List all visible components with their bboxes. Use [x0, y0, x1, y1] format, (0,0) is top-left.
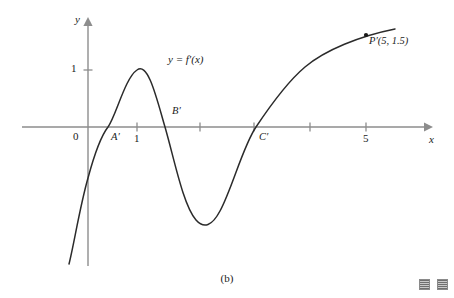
y-axis-label: y [75, 14, 80, 25]
label-b-prime: B′ [172, 106, 181, 117]
point-marker-p-prime [364, 33, 368, 37]
corner-marks [419, 279, 448, 290]
label-a-prime: A′ [111, 132, 120, 143]
x-tick-label-1: 1 [134, 133, 140, 144]
label-c-prime: C′ [259, 132, 268, 143]
origin-label: 0 [73, 131, 79, 142]
label-p-prime: P′(5, 1.5) [369, 36, 408, 47]
corner-square-1 [419, 279, 430, 290]
y-tick-label-1: 1 [71, 63, 77, 74]
curve-equation-label: y = f′(x) [168, 54, 203, 65]
x-axis [22, 122, 433, 131]
x-axis-label: x [429, 134, 434, 145]
corner-square-2 [437, 279, 448, 290]
curve-f-prime [69, 29, 395, 264]
x-tick-label-5: 5 [363, 133, 369, 144]
figure-caption: (b) [0, 272, 454, 284]
y-axis [83, 17, 92, 266]
figure-container: y x 0 1 1 5 y = f′(x) A′ B′ C′ P′(5, 1.5… [0, 0, 454, 298]
